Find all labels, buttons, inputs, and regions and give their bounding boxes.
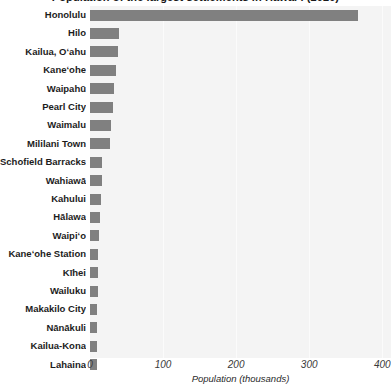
category-label: Makakilo City — [0, 300, 86, 318]
bar-row: Waipahū — [0, 80, 391, 98]
bar-row: Schofield Barracks — [0, 153, 391, 171]
bar — [90, 46, 118, 57]
bar-row: Wailuku — [0, 282, 391, 300]
category-label: Hālawa — [0, 208, 86, 226]
bar — [90, 120, 111, 131]
category-label: Pearl City — [0, 98, 86, 116]
bar-row: Honolulu — [0, 6, 391, 24]
category-label: Waipahū — [0, 80, 86, 98]
bar — [90, 249, 98, 260]
bar-chart: Population of the largest settlements in… — [0, 0, 391, 389]
bar — [90, 10, 358, 21]
bar-row: Pearl City — [0, 98, 391, 116]
category-label: Mililani Town — [0, 135, 86, 153]
bar — [90, 212, 100, 223]
category-label: Hilo — [0, 24, 86, 42]
category-label: Schofield Barracks — [0, 153, 86, 171]
bar — [90, 286, 98, 297]
category-label: Kahului — [0, 190, 86, 208]
bar-row: Wahiawā — [0, 172, 391, 190]
x-tick-label: 400 — [374, 359, 391, 370]
category-label: Wailuku — [0, 282, 86, 300]
bar — [90, 157, 102, 168]
category-label: Kailua-Kona — [0, 337, 86, 355]
category-label: Kaneʻohe Station — [0, 245, 86, 263]
bar-row: Hilo — [0, 24, 391, 42]
bar-rows: HonoluluHiloKailua, OʻahuKaneʻoheWaipahū… — [0, 6, 391, 358]
x-tick-label: 200 — [228, 359, 245, 370]
x-tick-label: 300 — [301, 359, 318, 370]
bar-row: Kahului — [0, 190, 391, 208]
bar — [90, 102, 113, 113]
bar-row: Makakilo City — [0, 300, 391, 318]
bar-row: Waimalu — [0, 116, 391, 134]
bar — [90, 28, 119, 39]
x-tick-label: 100 — [155, 359, 172, 370]
bar-row: Waipiʻo — [0, 227, 391, 245]
bar — [90, 194, 101, 205]
bar — [90, 138, 110, 149]
category-label: Nānākuli — [0, 319, 86, 337]
bar-row: Kailua, Oʻahu — [0, 43, 391, 61]
x-axis-title: Population (thousands) — [90, 373, 391, 384]
category-label: Honolulu — [0, 6, 86, 24]
category-label: Waimalu — [0, 116, 86, 134]
bar-row: Hālawa — [0, 208, 391, 226]
bar-row: Kaneʻohe — [0, 61, 391, 79]
bar — [90, 341, 97, 352]
category-label: Kaneʻohe — [0, 61, 86, 79]
bar — [90, 175, 102, 186]
category-label: Wahiawā — [0, 172, 86, 190]
bar — [90, 304, 97, 315]
bar-row: Kīhei — [0, 264, 391, 282]
bar — [90, 83, 114, 94]
bar-row: Mililani Town — [0, 135, 391, 153]
category-label: Waipiʻo — [0, 227, 86, 245]
category-label: Kailua, Oʻahu — [0, 43, 86, 61]
bar — [90, 230, 99, 241]
bar-row: Kaneʻohe Station — [0, 245, 391, 263]
bar-row: Kailua-Kona — [0, 337, 391, 355]
bar — [90, 322, 97, 333]
x-axis: Population (thousands) 0100200300400 — [0, 358, 391, 389]
category-label: Kīhei — [0, 264, 86, 282]
bar-row: Nānākuli — [0, 319, 391, 337]
x-tick-label: 0 — [87, 359, 93, 370]
bar — [90, 267, 98, 278]
chart-title: Population of the largest settlements in… — [0, 0, 391, 3]
bar — [90, 65, 116, 76]
